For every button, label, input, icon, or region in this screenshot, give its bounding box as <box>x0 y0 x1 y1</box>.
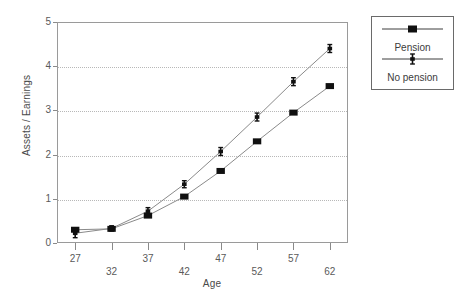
x-tick-mark-47 <box>221 243 222 250</box>
data-point-no-pension-47 <box>218 148 223 156</box>
y-axis-title: Assets / Earnings <box>21 56 32 176</box>
y-tick-label-0: 0 <box>31 238 51 248</box>
data-point-pension-47 <box>216 168 224 174</box>
y-tick-label-4: 4 <box>31 61 51 71</box>
x-tick-mark-37 <box>148 243 149 250</box>
x-tick-mark-52 <box>257 243 258 250</box>
x-axis-title: Age <box>152 278 272 289</box>
x-tick-label-62: 62 <box>317 266 343 277</box>
x-tick-label-52: 52 <box>244 266 270 277</box>
y-tick-label-5: 5 <box>31 17 51 27</box>
x-tick-mark-42 <box>184 243 185 250</box>
data-series-layer <box>57 22 348 243</box>
x-tick-mark-57 <box>293 243 294 250</box>
x-tick-mark-62 <box>330 243 331 250</box>
data-point-pension-62 <box>326 83 334 89</box>
x-tick-label-32: 32 <box>99 266 125 277</box>
x-tick-label-47: 47 <box>208 253 234 264</box>
y-tick-label-2: 2 <box>31 150 51 160</box>
series-line-no-pension <box>75 49 330 234</box>
chart-figure: Assets / Earnings Age 012345 27323742475… <box>0 0 465 300</box>
y-tick-label-1: 1 <box>31 194 51 204</box>
data-point-no-pension-57 <box>291 78 296 86</box>
x-tick-label-27: 27 <box>62 253 88 264</box>
legend-marker-pension <box>408 26 417 33</box>
data-point-pension-42 <box>180 194 188 200</box>
x-tick-label-42: 42 <box>171 266 197 277</box>
y-tick-mark-0 <box>53 243 57 244</box>
chart-legend: Pension No pension <box>371 16 454 90</box>
x-tick-mark-27 <box>75 243 76 250</box>
x-tick-label-57: 57 <box>280 253 306 264</box>
legend-label-pension: Pension <box>372 42 453 54</box>
legend-label-no-pension: No pension <box>372 72 453 84</box>
series-line-pension <box>75 86 330 230</box>
data-point-no-pension-52 <box>255 113 260 121</box>
x-tick-label-37: 37 <box>135 253 161 264</box>
x-tick-mark-32 <box>112 243 113 250</box>
data-point-no-pension-42 <box>182 181 187 188</box>
y-tick-label-3: 3 <box>31 105 51 115</box>
data-point-pension-57 <box>289 110 297 116</box>
data-point-pension-52 <box>253 138 261 144</box>
legend-marker-no-pension <box>410 54 415 64</box>
data-point-no-pension-62 <box>327 45 332 53</box>
